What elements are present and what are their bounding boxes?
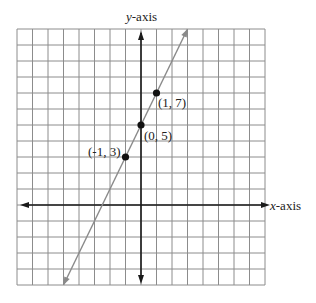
y-axis-arrow-up-icon — [138, 31, 144, 40]
coordinate-plane — [0, 0, 316, 303]
point-label-1-7: (1, 7) — [158, 96, 186, 109]
point-label-neg1-3: (-1, 3) — [88, 145, 121, 158]
x-axis-label: x-axis — [270, 199, 301, 212]
data-point — [122, 153, 129, 160]
point-label-0-5: (0, 5) — [144, 129, 172, 142]
y-axis-label: y-axis — [126, 10, 157, 23]
x-axis-arrow-left-icon — [20, 202, 29, 208]
y-axis-arrow-down-icon — [138, 275, 144, 284]
line-arrow-down-icon — [64, 276, 70, 285]
line-arrow-up-icon — [181, 29, 187, 38]
